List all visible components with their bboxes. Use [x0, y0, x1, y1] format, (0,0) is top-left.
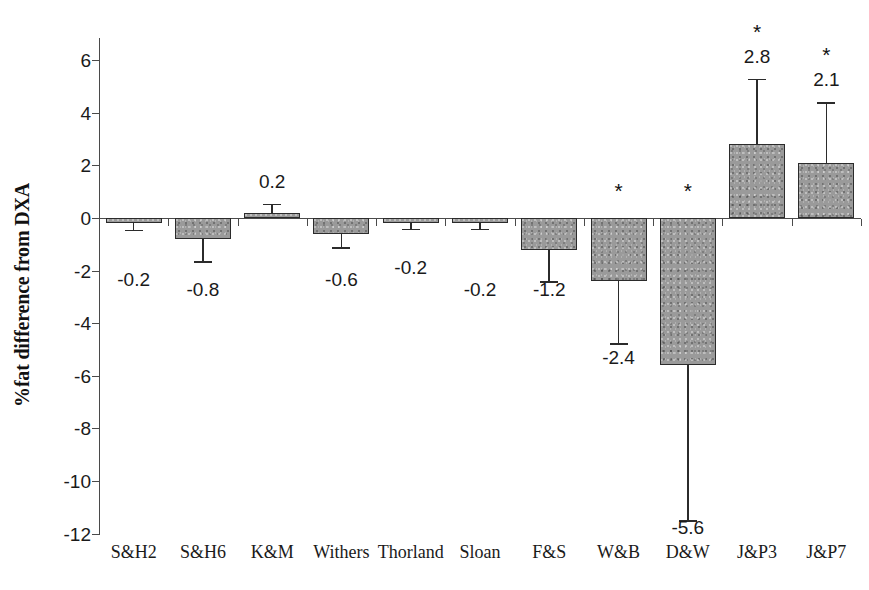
- bar-value-label: 2.1: [791, 70, 861, 89]
- y-axis-tick: [92, 218, 99, 219]
- significance-star: *: [737, 21, 777, 42]
- bar-d-and-w: [660, 218, 716, 365]
- y-axis-tick-label: -12: [47, 525, 91, 544]
- y-axis-tick-label: 0: [47, 209, 91, 228]
- bar-j-and-p3: [729, 144, 785, 218]
- error-bar-cap: [471, 229, 489, 231]
- y-axis-tick-label: -2: [47, 262, 91, 281]
- bar-value-label: -5.6: [653, 518, 723, 537]
- bar-k-and-m: [244, 213, 300, 218]
- error-bar-cap: [332, 247, 350, 249]
- bar-value-label: -2.4: [584, 348, 654, 367]
- y-axis-tick: [92, 428, 99, 429]
- bar-value-label: 0.2: [237, 172, 307, 191]
- y-axis-tick-label: 6: [47, 51, 91, 70]
- x-axis-tick: [515, 219, 516, 226]
- x-axis-tick: [445, 219, 446, 226]
- y-axis-tick: [92, 113, 99, 114]
- y-axis-tick-label: -6: [47, 367, 91, 386]
- x-axis-tick: [584, 219, 585, 226]
- y-axis-tick: [92, 376, 99, 377]
- error-bar-cap: [402, 229, 420, 231]
- significance-star: *: [599, 180, 639, 201]
- x-axis-tick: [99, 219, 100, 226]
- y-axis-tick: [92, 534, 99, 535]
- bar-value-label: -0.6: [306, 270, 376, 289]
- bar-value-label: -0.2: [99, 270, 169, 289]
- plot-area: 6420-2-4-6-8-10-12 -0.2-0.80.2-0.6-0.2-0…: [99, 38, 861, 538]
- y-axis-tick-label: 2: [47, 156, 91, 175]
- y-axis-tick: [92, 60, 99, 61]
- x-axis-tick: [238, 219, 239, 226]
- bar-withers: [313, 218, 369, 234]
- error-bar-stem: [548, 250, 550, 282]
- y-axis-tick: [92, 165, 99, 166]
- error-bar-cap: [263, 204, 281, 206]
- error-bar-cap: [610, 343, 628, 345]
- error-bar-cap: [817, 102, 835, 104]
- x-axis-tick: [168, 219, 169, 226]
- error-bar-stem: [618, 281, 620, 343]
- error-bar-stem: [826, 102, 828, 162]
- significance-star: *: [668, 180, 708, 201]
- error-bar-cap: [125, 230, 143, 232]
- bar-value-label: -0.8: [168, 280, 238, 299]
- y-axis-tick-label: -8: [47, 419, 91, 438]
- error-bar-stem: [341, 234, 343, 247]
- error-bar-cap: [748, 79, 766, 81]
- error-bar-cap: [194, 261, 212, 263]
- bar-value-label: -0.2: [445, 280, 515, 299]
- error-bar-stem: [202, 239, 204, 261]
- y-axis-tick: [92, 323, 99, 324]
- error-bar-stem: [756, 79, 758, 145]
- bar-value-label: 2.8: [722, 47, 792, 66]
- x-axis-tick: [861, 219, 862, 226]
- x-axis-tick: [376, 219, 377, 226]
- y-axis-tick-label: -10: [47, 472, 91, 491]
- y-axis-tick: [92, 481, 99, 482]
- chart-figure: %fat difference from DXA 6420-2-4-6-8-10…: [0, 0, 869, 590]
- x-axis-tick: [307, 219, 308, 226]
- y-axis-tick-label: 4: [47, 104, 91, 123]
- bar-f-and-s: [521, 218, 577, 250]
- x-axis-tick: [792, 219, 793, 226]
- bar-value-label: -1.2: [514, 280, 584, 299]
- error-bar-stem: [687, 365, 689, 520]
- x-axis-tick: [722, 219, 723, 226]
- bar-j-and-p7: [798, 163, 854, 218]
- y-axis-title: %fat difference from DXA: [0, 0, 44, 590]
- bar-s-and-h6: [175, 218, 231, 239]
- x-axis-tick: [653, 219, 654, 226]
- error-bar-stem: [133, 223, 135, 230]
- bar-w-and-b: [591, 218, 647, 281]
- y-axis-tick-labels: 6420-2-4-6-8-10-12: [43, 38, 91, 535]
- bar-value-label: -0.2: [376, 258, 446, 277]
- y-axis-tick-label: -4: [47, 314, 91, 333]
- significance-star: *: [806, 44, 846, 65]
- x-axis-label-j-and-p7: J&P7: [778, 543, 869, 561]
